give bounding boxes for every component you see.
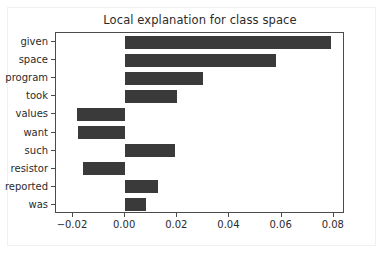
plot-axes [55,32,344,213]
x-tick-mark-0 [72,213,73,217]
y-tick-label-was: was [28,198,48,209]
y-axis-tick-labels: givenspaceprogramtookvalueswantsuchresis… [0,32,48,213]
bar-was [125,198,146,211]
x-tick-mark-1 [124,213,125,217]
bar-want [78,126,125,139]
x-tick-label-0: −0.02 [57,219,88,230]
y-tick-label-space: space [19,54,48,65]
y-tick-mark-given [51,41,55,42]
plot-area [56,33,343,212]
x-tick-mark-2 [176,213,177,217]
y-tick-mark-program [51,77,55,78]
y-tick-label-given: given [20,36,48,47]
bar-space [125,54,276,67]
x-tick-mark-5 [333,213,334,217]
x-tick-label-2: 0.02 [165,219,187,230]
x-tick-label-1: 0.00 [113,219,135,230]
bar-reported [125,180,158,193]
bar-resistor [83,162,125,175]
bar-values [77,108,126,121]
bar-took [125,90,177,103]
x-tick-label-4: 0.06 [269,219,291,230]
y-tick-label-resistor: resistor [11,162,48,173]
y-tick-label-such: such [25,144,48,155]
y-tick-mark-took [51,95,55,96]
x-tick-label-3: 0.04 [217,219,239,230]
y-tick-mark-space [51,59,55,60]
y-tick-label-values: values [15,108,48,119]
x-tick-mark-3 [228,213,229,217]
y-tick-mark-resistor [51,168,55,169]
y-tick-label-want: want [23,126,48,137]
y-tick-mark-such [51,150,55,151]
y-tick-label-program: program [5,72,48,83]
x-tick-mark-4 [281,213,282,217]
y-tick-label-took: took [26,90,48,101]
figure: Local explanation for class space givens… [0,0,384,254]
bar-given [125,36,331,49]
bar-such [125,144,175,157]
chart-title: Local explanation for class space [55,13,345,27]
x-tick-label-5: 0.08 [322,219,344,230]
y-tick-mark-reported [51,186,55,187]
y-tick-label-reported: reported [5,180,48,191]
bar-program [125,72,203,85]
y-tick-mark-values [51,113,55,114]
y-tick-mark-was [51,204,55,205]
y-tick-mark-want [51,132,55,133]
